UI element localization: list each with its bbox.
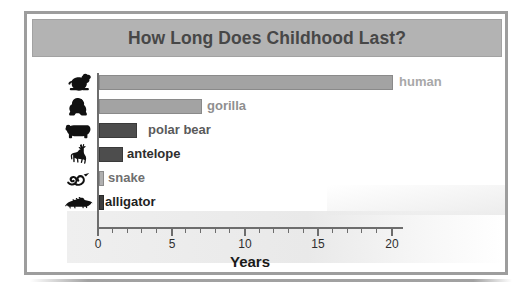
x-tick-10 (244, 229, 246, 236)
polar-bear-icon (63, 119, 95, 143)
bar-row-gorilla: gorilla (27, 95, 505, 119)
x-tick-label-20: 20 (385, 237, 398, 251)
bar-gorilla (99, 99, 202, 114)
bar-alligator (99, 195, 104, 210)
x-tick-20 (391, 229, 393, 236)
bar-label-snake: snake (108, 170, 145, 185)
x-tick-label-5: 5 (169, 237, 176, 251)
x-tick-minor-4 (156, 229, 157, 233)
snake-icon (63, 167, 95, 191)
x-tick-minor-6 (185, 229, 186, 233)
x-axis-line (97, 227, 403, 229)
bar-row-human: human (27, 71, 505, 95)
x-tick-minor-18 (361, 229, 362, 233)
bar-snake (99, 171, 104, 186)
x-tick-minor-7 (200, 229, 201, 233)
x-tick-minor-1 (112, 229, 113, 233)
figure-drop-shadow (30, 279, 512, 282)
bar-label-alligator: alligator (105, 194, 156, 209)
x-tick-minor-11 (259, 229, 260, 233)
bar-label-gorilla: gorilla (207, 98, 246, 113)
x-tick-minor-13 (288, 229, 289, 233)
bar-label-human: human (399, 74, 442, 89)
x-tick-label-0: 0 (95, 237, 102, 251)
x-tick-minor-12 (273, 229, 274, 233)
baby-icon (63, 71, 95, 95)
bar-row-alligator: alligator (27, 191, 505, 215)
bar-row-antelope: antelope (27, 143, 505, 167)
bar-polar-bear (99, 123, 137, 138)
x-tick-minor-14 (303, 229, 304, 233)
x-tick-label-10: 10 (238, 237, 251, 251)
x-tick-minor-3 (141, 229, 142, 233)
x-tick-0 (97, 229, 99, 236)
bar-row-snake: snake (27, 167, 505, 191)
x-tick-minor-8 (215, 229, 216, 233)
x-tick-15 (317, 229, 319, 236)
x-tick-minor-19 (376, 229, 377, 233)
x-tick-minor-17 (347, 229, 348, 233)
chart-figure: How Long Does Childhood Last? human (24, 11, 508, 275)
bar-human (99, 75, 393, 90)
x-axis-title: Years (97, 253, 403, 270)
chart-title: How Long Does Childhood Last? (128, 28, 406, 49)
gorilla-icon (63, 95, 95, 119)
x-tick-5 (171, 229, 173, 236)
x-tick-label-15: 15 (311, 237, 324, 251)
bar-label-polar-bear: polar bear (148, 122, 211, 137)
bar-label-antelope: antelope (127, 146, 180, 161)
antelope-icon (63, 143, 95, 167)
bar-antelope (99, 147, 123, 162)
x-tick-minor-2 (127, 229, 128, 233)
x-tick-minor-9 (229, 229, 230, 233)
alligator-icon (63, 191, 95, 215)
x-tick-minor-16 (332, 229, 333, 233)
chart-title-banner: How Long Does Childhood Last? (32, 19, 502, 57)
plot-area: human gorilla polar bear (27, 57, 505, 272)
bar-row-polar-bear: polar bear (27, 119, 505, 143)
